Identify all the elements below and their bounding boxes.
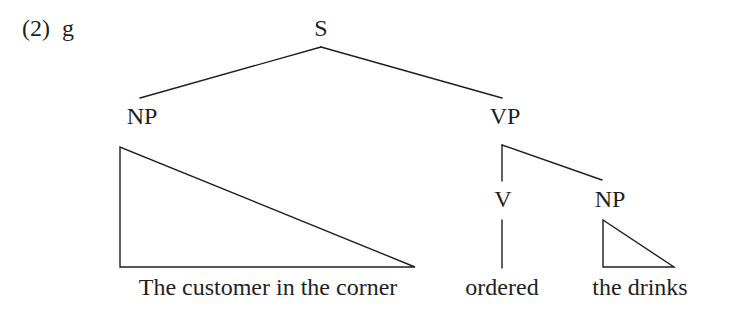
node-v: V xyxy=(494,187,511,211)
syntax-tree-lines xyxy=(0,0,734,319)
node-subject-np: NP xyxy=(127,104,158,128)
node-s: S xyxy=(314,16,327,40)
edge-s-vp xyxy=(321,47,502,98)
leaf-subject: The customer in the corner xyxy=(139,275,398,299)
subject-np-triangle xyxy=(120,147,415,267)
leaf-object: the drinks xyxy=(592,275,687,299)
node-vp: VP xyxy=(490,104,521,128)
node-object-np: NP xyxy=(595,187,626,211)
edge-s-np xyxy=(140,47,321,98)
edge-vp-np xyxy=(502,145,602,180)
leaf-verb: ordered xyxy=(465,275,538,299)
object-np-triangle xyxy=(603,220,674,267)
